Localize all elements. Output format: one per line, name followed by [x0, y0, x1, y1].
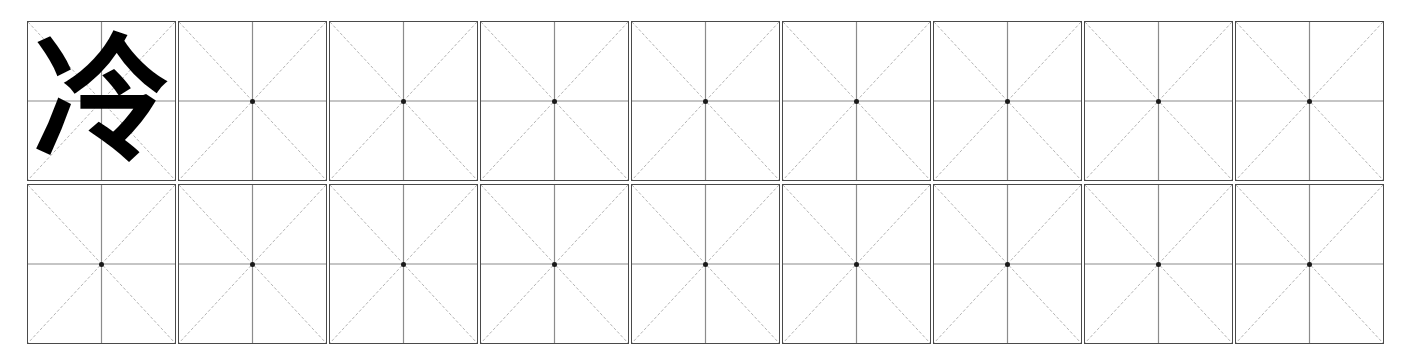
grid-center-dot — [854, 99, 859, 104]
practice-cell-empty[interactable] — [631, 21, 780, 181]
grid-center-dot — [1307, 262, 1312, 267]
practice-cell-filled[interactable]: 冷 — [27, 21, 176, 181]
grid-center-dot — [250, 99, 255, 104]
grid-center-dot — [1156, 262, 1161, 267]
practice-cell-empty[interactable] — [1084, 21, 1233, 181]
grid-center-dot — [1005, 99, 1010, 104]
grid-center-dot — [250, 262, 255, 267]
grid-center-dot — [703, 99, 708, 104]
practice-character: 冷 — [28, 22, 175, 180]
practice-cell-empty[interactable] — [933, 184, 1082, 344]
practice-cell-empty[interactable] — [631, 184, 780, 344]
practice-cell-empty[interactable] — [329, 184, 478, 344]
grid-center-dot — [703, 262, 708, 267]
practice-grid-row: 冷 — [27, 21, 1384, 181]
grid-center-dot — [552, 262, 557, 267]
practice-cell-empty[interactable] — [178, 21, 327, 181]
practice-cell-empty[interactable] — [782, 21, 931, 181]
practice-cell-empty[interactable] — [27, 184, 176, 344]
practice-cell-empty[interactable] — [329, 21, 478, 181]
practice-cell-empty[interactable] — [480, 184, 629, 344]
character-practice-worksheet: 冷 — [0, 0, 1418, 361]
grid-center-dot — [401, 262, 406, 267]
grid-center-dot — [854, 262, 859, 267]
practice-cell-empty[interactable] — [782, 184, 931, 344]
grid-center-dot — [1307, 99, 1312, 104]
practice-cell-empty[interactable] — [178, 184, 327, 344]
practice-cell-empty[interactable] — [1084, 184, 1233, 344]
practice-cell-empty[interactable] — [1235, 184, 1384, 344]
grid-center-dot — [99, 262, 104, 267]
grid-center-dot — [1005, 262, 1010, 267]
practice-cell-empty[interactable] — [1235, 21, 1384, 181]
grid-center-dot — [401, 99, 406, 104]
grid-center-dot — [552, 99, 557, 104]
grid-center-dot — [1156, 99, 1161, 104]
practice-grid-row — [27, 184, 1384, 344]
practice-cell-empty[interactable] — [933, 21, 1082, 181]
practice-cell-empty[interactable] — [480, 21, 629, 181]
practice-grid: 冷 — [27, 21, 1384, 344]
